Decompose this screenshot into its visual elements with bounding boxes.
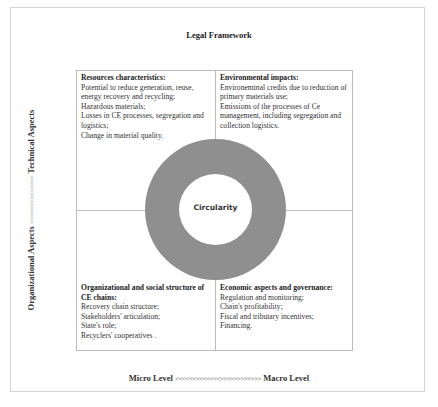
quadrant-item: Fiscal and tributary incentives; bbox=[220, 312, 350, 322]
quadrant-item: Potential to reduce generation, reuse, e… bbox=[81, 83, 213, 102]
technical-aspects-label: Technical Aspects bbox=[26, 110, 36, 174]
macro-level-label: Macro Level bbox=[263, 373, 309, 383]
quadrant-item: State's role; bbox=[81, 321, 213, 331]
quadrant-economic-governance: Economic aspects and governance: Regulat… bbox=[220, 283, 350, 331]
legal-framework-label: Legal Framework bbox=[0, 30, 438, 40]
quadrant-organizational-social-structure: Organizational and social structure of C… bbox=[81, 283, 213, 341]
circularity-label: Circularity bbox=[179, 203, 252, 212]
quadrant-item: Recyclers' cooperatives . bbox=[81, 331, 213, 341]
quadrant-resources-characteristics: Resources characteristics: Potential to … bbox=[81, 73, 213, 140]
quadrant-title: Economic aspects and governance: bbox=[220, 283, 333, 292]
quadrant-item: Emissions of the processes of Ce managem… bbox=[220, 102, 350, 131]
quadrant-item: Chain's profitability; bbox=[220, 302, 350, 312]
vertical-axis-label: Organizational Aspects <<<<<<<>>>>>>> Te… bbox=[26, 65, 36, 355]
horizontal-axis-label: Micro Level <<<<<<<<<<<<<>>>>>>>>>>>> Ma… bbox=[0, 373, 438, 383]
axis-arrows: <<<<<<<>>>>>>> bbox=[28, 176, 36, 224]
quadrant-title: Resources characteristics: bbox=[81, 73, 165, 82]
quadrant-title: Environmental impacts: bbox=[220, 73, 299, 82]
quadrant-item: Financing. bbox=[220, 321, 350, 331]
quadrant-environmental-impacts: Environmental impacts: Environemtnal cre… bbox=[220, 73, 350, 131]
quadrant-item: Hazardous materials; bbox=[81, 102, 213, 112]
axis-arrows: <<<<<<<<<<<<<>>>>>>>>>>>> bbox=[175, 375, 261, 383]
quadrant-item: Recovery chain structure; bbox=[81, 302, 213, 312]
quadrant-item: Environemtnal credits due to reduction o… bbox=[220, 83, 350, 102]
organizational-aspects-label: Organizational Aspects bbox=[26, 226, 36, 310]
quadrant-item: Losses in CE processes, segregation and … bbox=[81, 111, 213, 130]
quadrant-item: Stakeholders' articulation; bbox=[81, 312, 213, 322]
quadrant-title: Organizational and social structure of C… bbox=[81, 283, 204, 302]
micro-level-label: Micro Level bbox=[129, 373, 173, 383]
quadrant-item: Change in material quality. bbox=[81, 131, 213, 141]
quadrant-item: Regulation and monitoring; bbox=[220, 293, 350, 303]
